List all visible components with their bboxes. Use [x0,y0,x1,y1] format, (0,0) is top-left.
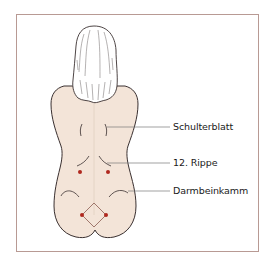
label-12-rippe: 12. Rippe [173,157,217,169]
torso-outline [51,86,138,238]
label-darmbeinkamm: Darmbeinkamm [173,185,248,197]
anatomy-illustration [0,0,275,263]
upper-left-point [78,170,82,174]
lower-left-point [80,213,84,217]
upper-right-point [106,170,110,174]
lower-right-point [104,213,108,217]
label-schulterblatt: Schulterblatt [173,121,233,133]
